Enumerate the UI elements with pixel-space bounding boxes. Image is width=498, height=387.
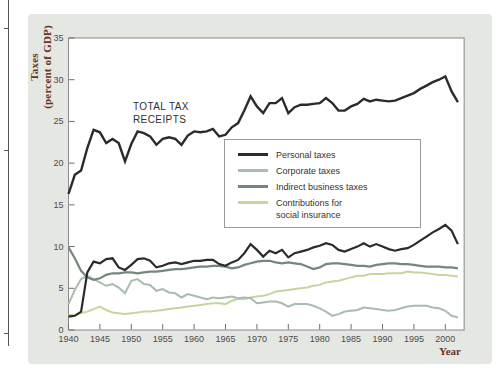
y-tick-label: 10 xyxy=(53,242,63,252)
y-tick-label: 35 xyxy=(53,33,63,43)
x-tick-label: 1980 xyxy=(310,334,330,344)
legend-swatch-personal-taxes xyxy=(238,153,268,156)
y-tick-label: 5 xyxy=(58,283,63,293)
x-tick-label: 1950 xyxy=(121,334,141,344)
y-tick-label: 20 xyxy=(53,158,63,168)
legend-item-corporate-taxes: Corporate taxes xyxy=(225,165,420,177)
x-axis-title: Year xyxy=(428,345,472,357)
x-tick-label: 1955 xyxy=(153,334,173,344)
y-tick-label: 30 xyxy=(53,75,63,85)
x-tick-label: 1945 xyxy=(90,334,110,344)
figure-page: 1940194519501955196019651970197519801985… xyxy=(0,0,498,387)
legend-swatch-indirect-business-taxes xyxy=(238,185,268,188)
y-axis-title-line1: Taxes xyxy=(28,25,41,109)
legend-label-indirect-business-taxes: Indirect business taxes xyxy=(276,181,368,193)
y-axis-title: Taxes (percent of GDP) xyxy=(28,25,54,109)
annotation-line2: RECEIPTS xyxy=(133,113,189,126)
legend-label-corporate-taxes: Corporate taxes xyxy=(276,165,340,177)
legend-swatch-corporate-taxes xyxy=(238,169,268,172)
y-tick-label: 25 xyxy=(53,116,63,126)
x-tick-label: 1970 xyxy=(247,334,267,344)
total-tax-receipts-annotation: TOTAL TAX RECEIPTS xyxy=(133,100,189,126)
x-tick-label: 1975 xyxy=(278,334,298,344)
legend-item-social-insurance: Contributions forsocial insurance xyxy=(225,197,420,221)
x-tick-label: 2000 xyxy=(435,334,455,344)
y-axis-title-line2: (percent of GDP) xyxy=(41,25,54,109)
x-tick-label: 1940 xyxy=(58,334,78,344)
legend-label-social-insurance: Contributions forsocial insurance xyxy=(276,197,342,221)
legend-item-indirect-business-taxes: Indirect business taxes xyxy=(225,181,420,193)
x-tick-label: 1960 xyxy=(184,334,204,344)
x-tick-label: 1965 xyxy=(215,334,235,344)
legend-label-personal-taxes: Personal taxes xyxy=(276,149,336,161)
legend-item-personal-taxes: Personal taxes xyxy=(225,149,420,161)
annotation-line1: TOTAL TAX xyxy=(133,100,189,113)
y-tick-label: 15 xyxy=(53,200,63,210)
x-tick-label: 1985 xyxy=(341,334,361,344)
legend-box: Personal taxes Corporate taxes Indirect … xyxy=(224,139,421,228)
x-tick-label: 1995 xyxy=(404,334,424,344)
legend-swatch-social-insurance xyxy=(238,201,268,204)
y-tick-label: 0 xyxy=(58,325,63,335)
x-tick-label: 1990 xyxy=(372,334,392,344)
